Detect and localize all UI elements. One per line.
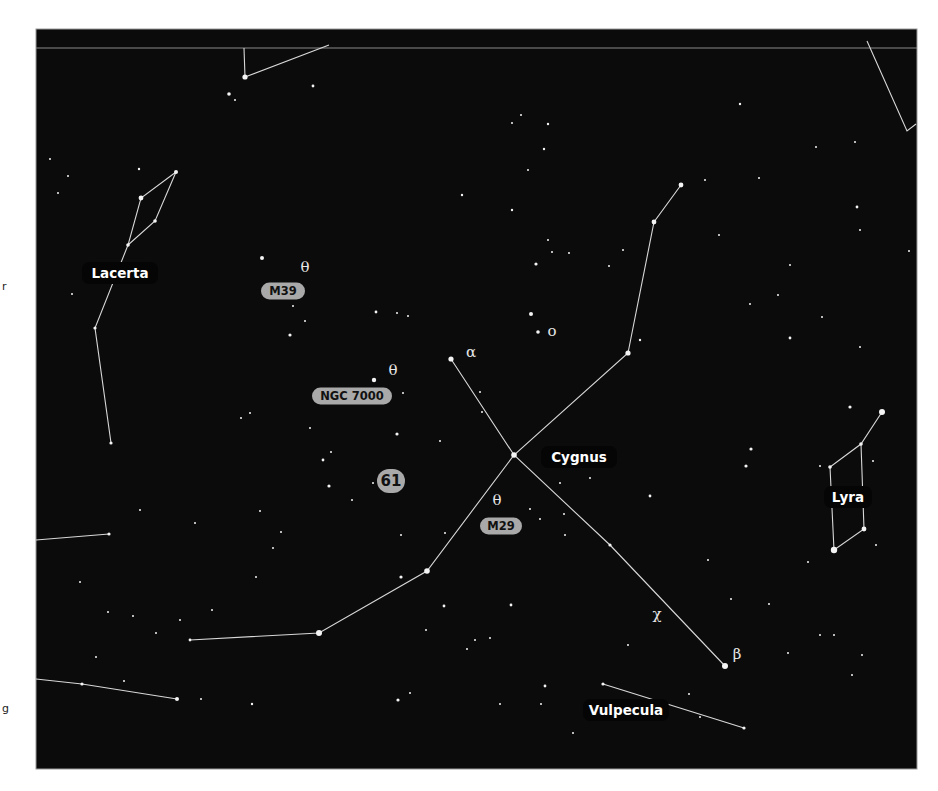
star [489,637,491,639]
star [787,652,789,654]
star [821,316,823,318]
star [481,411,483,413]
margin-text-fragment: r [2,280,7,293]
star [744,464,747,467]
constellation-label-vulpecula[interactable]: Vulpecula [583,699,669,721]
star [234,99,236,101]
greek-letter-label: θ [388,361,397,379]
star [807,561,809,563]
star [627,644,629,646]
greek-letter-label: θ [492,491,501,509]
star [240,417,242,419]
star [520,114,522,116]
star [272,547,274,549]
star [292,305,294,307]
star [777,294,779,296]
star [815,146,817,148]
star [704,179,706,181]
greek-letter-label: χ [652,605,661,623]
deep-sky-object-m39[interactable]: M39 [261,283,305,300]
star [828,465,832,469]
star [375,311,378,314]
star [819,634,821,636]
star [474,639,476,641]
star [688,693,690,695]
star [511,452,517,458]
sky-map-frame [36,29,917,769]
star [511,209,513,211]
star [589,477,591,479]
star [622,249,624,251]
constellation-label-lyra[interactable]: Lyra [824,486,872,508]
star [309,427,311,429]
star-chart: rg θθθαοχβ M39NGC 700061M29 LacertaCygnu… [0,0,938,791]
star [527,169,529,171]
deep-sky-object-ngc-7000[interactable]: NGC 7000 [312,388,392,405]
margin-text-fragment: g [2,702,9,715]
star [49,158,51,160]
constellation-label-lacerta[interactable]: Lacerta [82,262,158,284]
star [399,575,402,578]
star [260,256,264,260]
star [93,326,96,329]
star [409,692,411,694]
star [316,630,322,636]
star [851,674,853,676]
star [608,265,610,267]
star [400,534,402,536]
star [819,465,821,467]
star [175,697,179,701]
star [249,412,251,414]
star [153,219,157,223]
star [854,141,856,143]
star [511,122,513,124]
star [444,532,446,534]
star [139,196,144,201]
star [534,262,537,265]
star [908,250,910,252]
star [652,220,657,225]
star [67,175,69,177]
deep-sky-object-m29[interactable]: M29 [480,518,522,535]
star [547,123,549,125]
star [559,482,561,484]
constellation-label-cygnus[interactable]: Cygnus [541,446,617,468]
star [396,312,398,314]
star [251,703,253,705]
star [351,499,353,501]
star [424,568,430,574]
star [189,639,192,642]
star [758,177,760,179]
star [396,698,399,701]
star [179,619,181,621]
star [280,531,282,533]
star [862,527,867,532]
star [749,303,751,305]
star [601,682,604,685]
star [529,508,531,510]
star [649,495,652,498]
star [563,513,565,515]
constellation-name: Lacerta [91,265,148,281]
object-label: M29 [487,519,514,533]
star [312,85,315,88]
star [95,656,97,658]
star [543,148,545,150]
star [742,726,745,729]
star [540,703,542,705]
star [848,405,851,408]
star [859,346,861,348]
star [872,460,874,462]
object-label: 61 [381,472,402,490]
star [461,194,463,196]
star [194,522,196,524]
star [123,680,125,682]
star [107,532,110,535]
deep-sky-object-61[interactable]: 61 [377,469,405,493]
object-label: M39 [269,284,296,298]
star [564,534,566,536]
star [126,243,130,247]
star [833,634,835,636]
star [174,170,178,174]
star [572,732,574,734]
